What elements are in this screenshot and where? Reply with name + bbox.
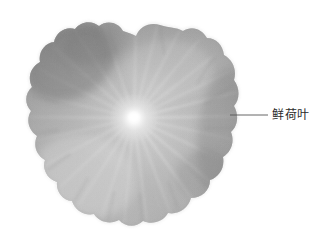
leaf-center-point <box>129 113 140 122</box>
figure-container: 鲜荷叶 <box>0 0 325 239</box>
callout-label-text: 鲜荷叶 <box>272 106 310 124</box>
